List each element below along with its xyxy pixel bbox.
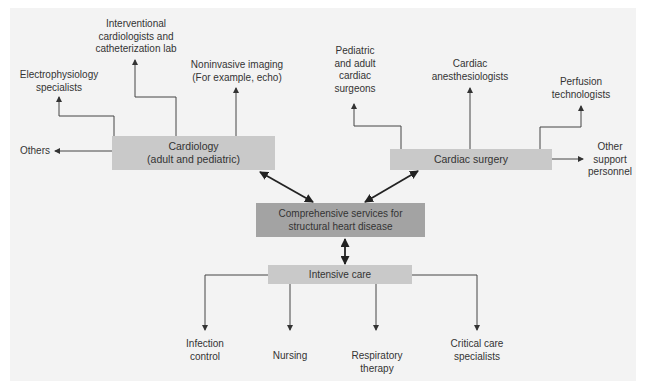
label-others: Others (20, 145, 50, 158)
label-perfusion-technologists: Perfusion technologists (552, 76, 610, 101)
center-label-line2: structural heart disease (279, 220, 403, 233)
intensive-care-box: Intensive care (268, 265, 412, 284)
intensive-care-label: Intensive care (309, 268, 371, 281)
center-label-line1: Comprehensive services for (279, 207, 403, 220)
label-nursing: Nursing (273, 350, 307, 363)
connector-lines (0, 0, 645, 386)
label-infection-control: Infection control (186, 338, 224, 363)
label-other-support-personnel: Other support personnel (588, 141, 632, 179)
label-critical-care-specialists: Critical care specialists (451, 338, 504, 363)
cardiology-label: Cardiology (147, 140, 240, 153)
cardiology-box: Cardiology (adult and pediatric) (112, 136, 275, 170)
label-pediatric-adult-surgeons: Pediatric and adult cardiac surgeons (334, 45, 375, 95)
center-box: Comprehensive services for structural he… (256, 203, 425, 237)
label-interventional: Interventional cardiologists and cathete… (95, 18, 176, 56)
cardiac-surgery-label: Cardiac surgery (434, 153, 508, 166)
label-electrophysiology: Electrophysiology specialists (20, 69, 98, 94)
cardiac-surgery-box: Cardiac surgery (390, 149, 552, 170)
label-respiratory-therapy: Respiratory therapy (351, 350, 402, 375)
label-noninvasive-imaging: Noninvasive imaging (For example, echo) (191, 59, 283, 84)
cardiology-sublabel: (adult and pediatric) (147, 153, 240, 166)
label-cardiac-anesthesiologists: Cardiac anesthesiologists (432, 58, 509, 83)
